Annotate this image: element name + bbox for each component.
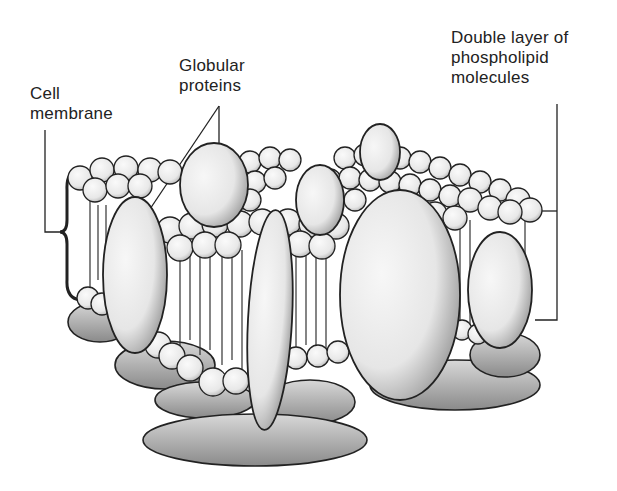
- membrane-illustration: [0, 0, 617, 491]
